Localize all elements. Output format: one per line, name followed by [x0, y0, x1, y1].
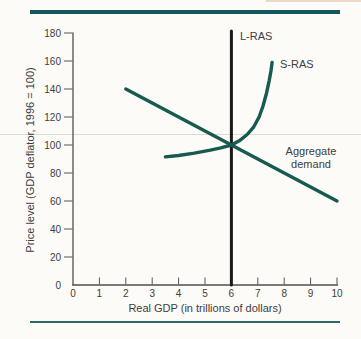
x-axis-title: Real GDP (in trillions of dollars) [73, 302, 337, 314]
x-tick-label: 5 [202, 288, 208, 299]
x-tick-label: 4 [176, 288, 182, 299]
bottom-rule [30, 321, 340, 323]
x-tick-label: 10 [331, 288, 343, 299]
y-tick-label: 160 [44, 56, 61, 67]
y-tick-label: 0 [55, 280, 61, 291]
x-tick-label: 0 [70, 288, 76, 299]
series-s-ras [165, 62, 272, 156]
x-tick-label: 9 [308, 288, 314, 299]
x-tick-label: 3 [149, 288, 155, 299]
s-ras-label: S-RAS [280, 58, 314, 70]
scanned-textbook-page: 012345678910020406080100120140160180 Pri… [0, 0, 361, 339]
y-axis-title: Price level (GDP deflator, 1996 = 100) [24, 67, 36, 252]
y-tick-label: 80 [50, 168, 62, 179]
y-tick-label: 100 [44, 140, 61, 151]
y-tick-label: 120 [44, 112, 61, 123]
x-tick-label: 1 [97, 288, 103, 299]
x-tick-label: 2 [123, 288, 129, 299]
as-ad-chart: 012345678910020406080100120140160180 Pri… [0, 0, 361, 339]
x-tick-label: 8 [281, 288, 287, 299]
y-tick-label: 20 [50, 252, 62, 263]
l-ras-label: L-RAS [240, 30, 272, 42]
x-tick-label: 7 [255, 288, 261, 299]
y-tick-label: 180 [44, 28, 61, 39]
aggregate-demand-label: Aggregate demand [281, 145, 341, 171]
y-tick-label: 60 [50, 196, 62, 207]
y-tick-label: 40 [50, 224, 62, 235]
x-tick-label: 6 [229, 288, 235, 299]
y-tick-label: 140 [44, 84, 61, 95]
